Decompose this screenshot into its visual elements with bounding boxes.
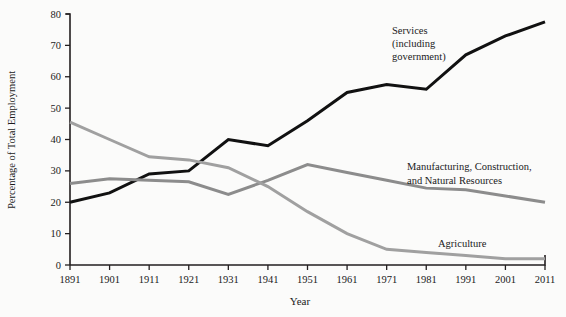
x-tick-label: 1991	[455, 274, 476, 285]
x-tick-label: 1961	[337, 274, 358, 285]
x-tick-label: 1931	[218, 274, 239, 285]
x-tick-label: 1951	[297, 274, 318, 285]
y-tick-label: 60	[51, 71, 62, 82]
x-tick-label: 1901	[99, 274, 120, 285]
y-tick-label: 10	[51, 228, 62, 239]
x-tick-label: 1971	[376, 274, 397, 285]
x-tick-label: 1911	[139, 274, 160, 285]
x-tick-label: 2001	[495, 274, 516, 285]
y-tick-label: 30	[51, 165, 62, 176]
x-tick-label: 1921	[178, 274, 199, 285]
series-annotation: government)	[392, 51, 446, 63]
x-axis-title: Year	[290, 295, 311, 307]
employment-line-chart: Percentage of Total Employment 010203040…	[0, 0, 566, 317]
y-tick-label: 40	[51, 134, 62, 145]
series-annotation: Manufacturing, Construction,	[407, 161, 532, 172]
x-tick-label: 2011	[535, 274, 556, 285]
y-axis-title: Percentage of Total Employment	[6, 71, 17, 209]
series-annotation: (including	[392, 38, 436, 50]
y-tick-label: 50	[51, 103, 62, 114]
x-tick-label: 1941	[257, 274, 278, 285]
series-annotation: Agriculture	[438, 238, 487, 249]
y-tick-label: 80	[51, 9, 62, 20]
series-annotation: Services	[392, 25, 428, 36]
x-tick-label: 1891	[60, 274, 81, 285]
x-tick-label: 1981	[416, 274, 437, 285]
y-tick-label: 70	[51, 40, 62, 51]
chart-container: Percentage of Total Employment 010203040…	[0, 0, 566, 317]
y-tick-label: 20	[51, 197, 62, 208]
series-annotation: and Natural Resources	[407, 175, 502, 186]
y-tick-label: 0	[56, 260, 61, 271]
